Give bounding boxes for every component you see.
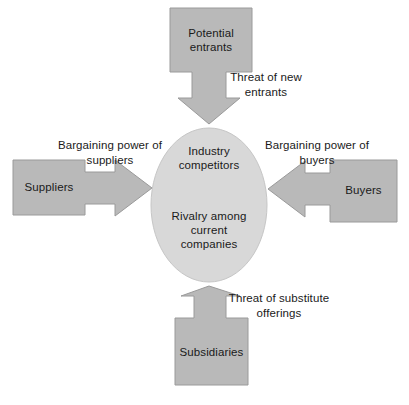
node-label-subsidiaries: Subsidiaries: [175, 345, 248, 359]
buyers-line-1: Buyers: [345, 184, 381, 196]
threat-new-entrants-line-1: Threat of new: [230, 71, 302, 83]
threat-substitute-line-2: offerings: [257, 307, 302, 319]
edge-label-threat-of-substitute-offerings: Threat of substitute offerings: [224, 291, 334, 320]
power-buyers-line-1: Bargaining power of: [265, 139, 369, 151]
power-buyers-line-2: buyers: [299, 154, 334, 166]
industry-competitors-line-2: competitors: [179, 159, 240, 171]
suppliers-line-1: Suppliers: [25, 181, 74, 193]
rivalry-line-2: current: [191, 224, 228, 236]
industry-competitors-line-1: Industry: [188, 145, 230, 157]
edge-label-bargaining-power-of-suppliers: Bargaining power of suppliers: [44, 138, 176, 167]
rivalry-line-3: companies: [181, 238, 238, 250]
five-forces-diagram: Potential entrants Suppliers Buyers Subs…: [0, 0, 409, 405]
center-label-rivalry-among-current-companies: Rivalry among current companies: [156, 209, 262, 251]
power-suppliers-line-2: suppliers: [87, 154, 134, 166]
power-suppliers-line-1: Bargaining power of: [58, 139, 162, 151]
threat-substitute-line-1: Threat of substitute: [229, 292, 329, 304]
edge-label-bargaining-power-of-buyers: Bargaining power of buyers: [250, 138, 384, 167]
potential-entrants-line-1: Potential: [188, 27, 234, 39]
node-label-potential-entrants: Potential entrants: [170, 26, 252, 54]
potential-entrants-line-2: entrants: [190, 41, 232, 53]
subsidiaries-line-1: Subsidiaries: [180, 346, 244, 358]
node-label-suppliers: Suppliers: [13, 180, 85, 194]
node-label-buyers: Buyers: [330, 183, 397, 197]
center-label-industry-competitors: Industry competitors: [159, 144, 259, 172]
threat-new-entrants-line-2: entrants: [245, 86, 287, 98]
edge-label-threat-of-new-entrants: Threat of new entrants: [218, 70, 314, 99]
rivalry-line-1: Rivalry among: [172, 210, 247, 222]
